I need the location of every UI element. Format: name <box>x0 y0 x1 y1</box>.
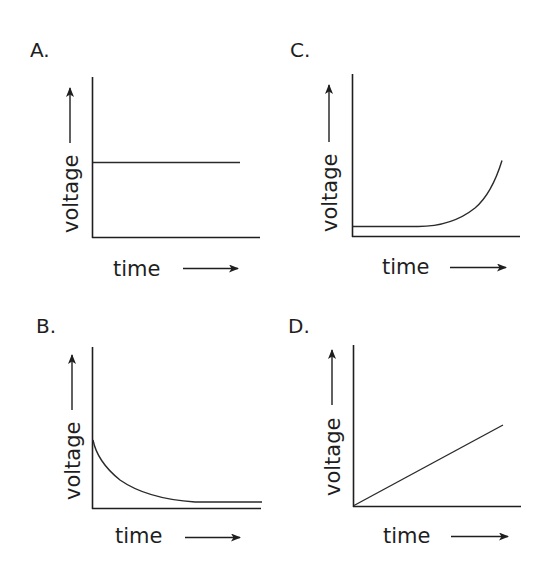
four-panel-voltage-figure: A. voltage time C. voltage time B. volta… <box>0 0 545 576</box>
panel-letter: C. <box>290 38 310 62</box>
y-axis-label: voltage <box>61 422 85 500</box>
x-axis-label: time <box>115 524 162 548</box>
panel-a: A. voltage time <box>30 38 260 281</box>
panel-letter: A. <box>30 38 50 62</box>
y-axis-label: voltage <box>318 154 342 232</box>
panel-b: B. voltage time <box>36 314 262 548</box>
y-axis-label: voltage <box>321 418 345 496</box>
x-axis-label: time <box>383 524 430 548</box>
x-axis-label: time <box>113 257 160 281</box>
panel-letter: B. <box>36 314 56 338</box>
panel-letter: D. <box>288 314 310 338</box>
decay-curve <box>93 440 262 502</box>
y-axis-label: voltage <box>59 155 83 233</box>
growth-curve <box>353 161 502 227</box>
y-axis-label-group: voltage <box>61 355 85 500</box>
x-axis-label: time <box>382 255 429 279</box>
y-axis-label-group: voltage <box>318 85 342 232</box>
y-axis-label-group: voltage <box>59 88 83 233</box>
panel-c: C. voltage time <box>290 38 520 279</box>
linear-line <box>354 425 503 506</box>
panel-d: D. voltage time <box>288 314 521 548</box>
y-axis-label-group: voltage <box>321 350 345 496</box>
